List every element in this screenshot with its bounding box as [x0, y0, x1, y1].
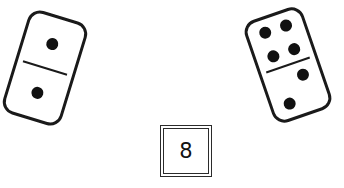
pip: [282, 96, 297, 111]
answer-value: 8: [179, 141, 192, 162]
answer-box[interactable]: 8: [160, 125, 212, 177]
domino-puzzle-scene: 8: [0, 0, 344, 188]
pip: [30, 85, 45, 100]
answer-box-inner-border: 8: [163, 128, 209, 174]
left-domino[interactable]: [0, 7, 90, 128]
pip: [287, 41, 302, 56]
pip: [257, 25, 272, 40]
pip: [279, 18, 294, 33]
pip: [45, 36, 60, 51]
pip: [296, 67, 311, 82]
pip: [265, 48, 280, 63]
right-domino[interactable]: [241, 4, 335, 126]
